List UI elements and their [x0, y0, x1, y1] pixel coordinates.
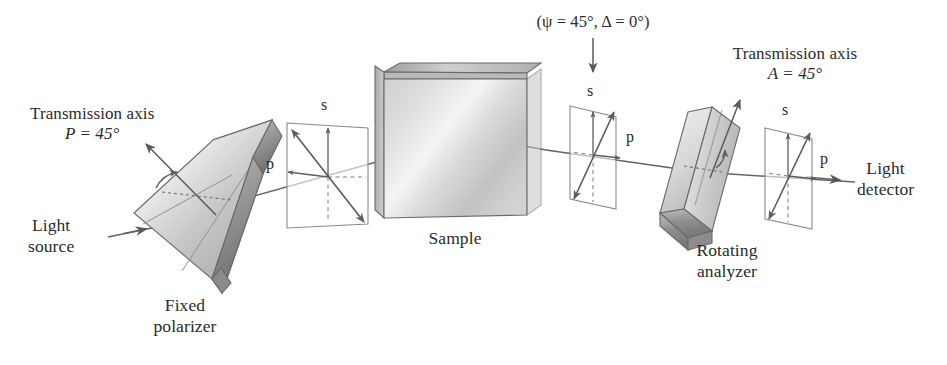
p-axis-label-plane3: p	[820, 150, 828, 169]
sample-state-label: (ψ = 45°, Δ = 0°)	[536, 12, 649, 31]
rotating-analyzer-line1: Rotating	[696, 240, 757, 261]
light-detector-line2: detector	[857, 179, 914, 200]
transmission-axis-left-label: Transmission axis P = 45°	[30, 104, 154, 144]
rotating-analyzer-label: Rotating analyzer	[696, 240, 757, 281]
light-detector-label: Light detector	[857, 158, 914, 199]
transmission-axis-left-line2: P = 45°	[30, 124, 154, 144]
light-source-line2: source	[28, 236, 74, 257]
p-axis-label-plane2: p	[626, 128, 634, 147]
fixed-polarizer-line1: Fixed	[153, 295, 216, 316]
polarization-plane-after-analyzer	[765, 128, 816, 229]
polarization-plane-after-polarizer	[287, 123, 368, 228]
transmission-axis-right-label: Transmission axis A = 45°	[733, 44, 857, 84]
fixed-polarizer-label: Fixed polarizer	[153, 295, 216, 336]
ellipsometer-figure: Transmission axis P = 45° Light source F…	[0, 0, 947, 365]
transmission-axis-left-line1: Transmission axis	[30, 104, 154, 124]
s-axis-label-plane1: s	[321, 96, 327, 115]
s-axis-label-plane2: s	[587, 82, 593, 101]
rotating-analyzer-line2: analyzer	[696, 261, 757, 282]
sample-plate	[375, 63, 541, 218]
polarization-plane-after-sample	[570, 106, 620, 209]
transmission-axis-right-line2: A = 45°	[733, 64, 857, 84]
sample-label: Sample	[428, 228, 481, 249]
s-axis-label-plane3: s	[782, 101, 788, 120]
fixed-polarizer	[134, 120, 286, 293]
transmission-axis-right-line1: Transmission axis	[733, 44, 857, 64]
light-detector-line1: Light	[857, 158, 914, 179]
rotating-analyzer	[660, 107, 740, 250]
fixed-polarizer-line2: polarizer	[153, 316, 216, 337]
p-axis-label-plane1: p	[266, 155, 274, 174]
light-source-line1: Light	[28, 215, 74, 236]
light-source-label: Light source	[28, 215, 74, 256]
